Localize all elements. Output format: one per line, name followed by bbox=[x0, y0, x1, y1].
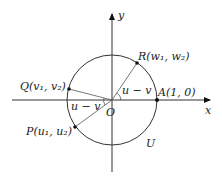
y-axis-label: y bbox=[117, 9, 125, 22]
angle-label-lower: u − v bbox=[71, 100, 101, 113]
point-p bbox=[73, 125, 77, 129]
point-a-label: A(1, 0) bbox=[157, 86, 196, 99]
point-r-label: R(w₁, w₂) bbox=[137, 50, 190, 63]
origin-label: O bbox=[106, 106, 115, 119]
unit-circle-diagram: y x O U A(1, 0) R(w₁, w₂) Q(v₁, v₂) P(u₁… bbox=[0, 0, 222, 182]
angle-arc-upper bbox=[117, 93, 121, 100]
point-q bbox=[67, 87, 71, 91]
point-p-label: P(u₁, u₂) bbox=[25, 125, 72, 138]
point-q-label: Q(v₁, v₂) bbox=[20, 80, 66, 93]
angle-arc-lower bbox=[104, 98, 105, 105]
x-axis-label: x bbox=[205, 104, 212, 117]
radius-oq bbox=[69, 89, 112, 100]
angle-label-upper: u − v bbox=[122, 84, 152, 97]
circle-label: U bbox=[146, 137, 156, 150]
